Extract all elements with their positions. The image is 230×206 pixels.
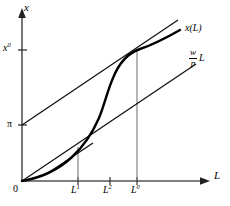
y-tick-label-pi: π (7, 119, 12, 129)
x-tick-label-L2: L2 (103, 185, 112, 195)
x-tick-L0-exponent: 0 (137, 183, 140, 190)
production-function-curve (22, 30, 180, 181)
fraction-denominator-p: p (191, 59, 196, 68)
x-axis (22, 177, 210, 184)
x-axis-label: L (214, 170, 220, 181)
x-tick-L1-exponent: 1 (77, 183, 80, 190)
wage-line-label-suffix-L: L (199, 53, 205, 63)
wage-cost-line-label: w p L (189, 48, 205, 69)
y-axis (18, 8, 26, 181)
x-tick-label-L0: L0 (131, 185, 140, 195)
y-axis-label: x (24, 2, 29, 13)
reference-drop-lines (78, 50, 137, 181)
wage-cost-line (22, 64, 196, 181)
x-tick-L2-exponent: 2 (109, 183, 112, 190)
origin-label: 0 (13, 184, 18, 194)
production-function-diagram: x L x0 π 0 L1 L2 L0 x(L) w p L (0, 0, 230, 206)
fraction-numerator-w: w (190, 48, 196, 57)
production-function-label: x(L) (185, 23, 202, 33)
x-tick-label-L1: L1 (71, 185, 80, 195)
y-tick-label-x0: x0 (3, 43, 11, 53)
isoprofit-line (22, 20, 178, 125)
wage-price-fraction: w p (189, 48, 197, 69)
y-tick-x0-exponent: 0 (7, 41, 10, 48)
